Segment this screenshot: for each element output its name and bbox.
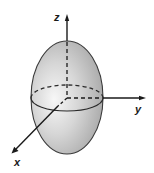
- ellipsoid-diagram: z y x: [0, 0, 154, 173]
- y-axis: [103, 96, 146, 100]
- z-axis: [65, 14, 69, 41]
- z-arrow-icon: [65, 14, 69, 21]
- ellipsoid-svg: [0, 0, 154, 173]
- z-axis-label: z: [54, 12, 60, 23]
- x-axis-label: x: [14, 157, 20, 168]
- y-axis-label: y: [135, 104, 141, 115]
- y-arrow-icon: [139, 96, 146, 100]
